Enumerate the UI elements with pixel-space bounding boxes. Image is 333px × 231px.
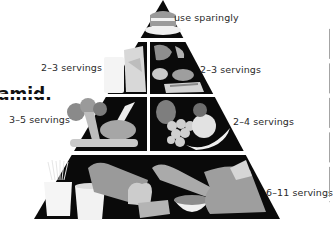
label-grain-servings: 6–11 servings <box>266 187 333 198</box>
label-fruit-servings: 2–4 servings <box>233 116 294 127</box>
label-dairy-servings: 2–3 servings <box>41 62 102 73</box>
label-use-sparingly: use sparingly <box>174 12 239 23</box>
label-vegetable-servings: 3–5 servings <box>9 114 70 125</box>
label-protein-servings: 2–3 servings <box>200 64 261 75</box>
page-edge-line <box>328 0 331 231</box>
